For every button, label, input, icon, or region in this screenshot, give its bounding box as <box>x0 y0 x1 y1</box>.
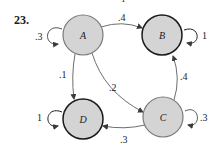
edge-a-to-b <box>101 24 142 28</box>
node-c-label: C <box>160 112 167 123</box>
node-b-label: B <box>159 30 165 41</box>
label-c-to-d: .3 <box>120 134 128 145</box>
edge-a-to-d <box>73 54 75 99</box>
edge-a-to-c <box>92 53 143 112</box>
top-cutoff-label: 1 <box>121 0 126 4</box>
label-a-to-c: .2 <box>109 82 117 93</box>
node-d: D <box>63 99 103 139</box>
self-loop-c <box>185 110 197 126</box>
node-a-label: A <box>79 30 87 41</box>
node-d-label: D <box>78 114 87 125</box>
label-a-to-d: .1 <box>59 69 67 80</box>
label-b-self: 1 <box>202 30 207 41</box>
diagram-canvas: 1 A B C <box>0 0 217 145</box>
edge-c-to-b <box>173 56 177 100</box>
node-b: B <box>142 15 182 55</box>
self-loop-b <box>184 29 197 43</box>
self-loop-d <box>48 111 62 127</box>
edge-c-to-d <box>103 125 145 128</box>
self-loop-a <box>47 28 62 44</box>
label-a-self: .3 <box>35 31 43 42</box>
node-c: C <box>143 97 183 137</box>
label-c-to-b: .4 <box>180 71 188 82</box>
label-a-to-b: .4 <box>118 12 126 23</box>
label-c-self: .3 <box>200 112 208 123</box>
node-a: A <box>63 15 103 55</box>
markov-chain-diagram: 23. 1 A <box>0 0 217 145</box>
label-d-self: 1 <box>37 112 42 123</box>
